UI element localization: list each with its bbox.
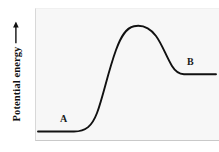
energy-curve	[0, 0, 219, 152]
label-a: A	[60, 113, 67, 124]
potential-energy-diagram: Potential energy A B	[0, 0, 219, 152]
label-b: B	[187, 56, 194, 67]
